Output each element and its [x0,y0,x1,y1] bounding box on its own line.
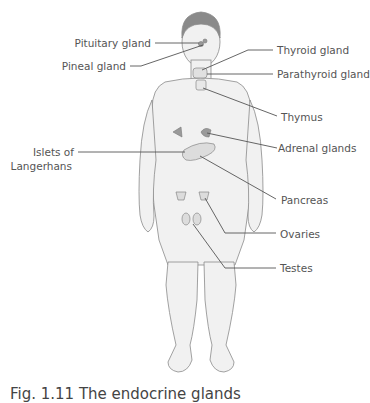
label-islets-line2: Langerhans [0,160,72,172]
label-testes: Testes [280,262,313,274]
testis-left-shape [182,213,190,225]
label-parathyroid-gland: Parathyroid gland [277,68,370,80]
label-islets-line1: Islets of [10,146,74,158]
label-pituitary-gland: Pituitary gland [56,37,151,49]
ovary-right-shape [199,192,209,200]
label-ovaries: Ovaries [280,228,320,240]
figure-caption: Fig. 1.11 The endocrine glands [10,385,241,403]
thyroid-gland-shape [193,68,207,78]
pineal-gland-shape [203,39,207,43]
label-pancreas: Pancreas [281,194,328,206]
label-pineal-gland: Pineal gland [46,60,126,72]
label-adrenal-glands: Adrenal glands [278,142,356,154]
testis-right-shape [193,213,201,225]
label-thyroid-gland: Thyroid gland [277,44,349,56]
label-thymus: Thymus [281,111,323,123]
ovary-left-shape [176,192,186,200]
